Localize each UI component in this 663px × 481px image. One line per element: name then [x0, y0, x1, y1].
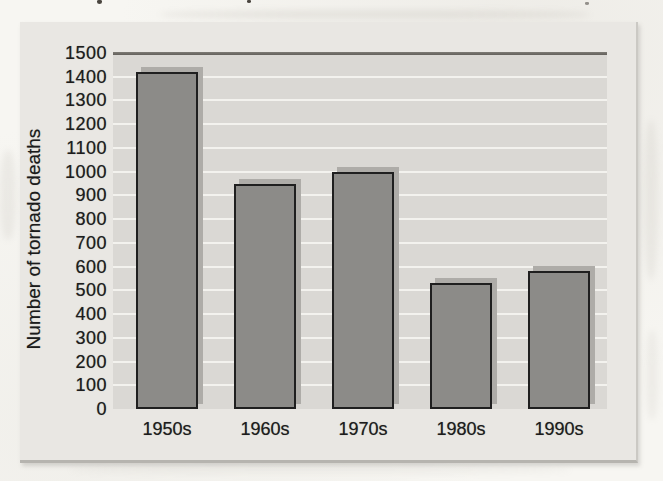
page-bleedthrough-smudge	[70, 466, 570, 474]
x-tick-label-1960s: 1960s	[216, 419, 314, 440]
bar-1970s	[332, 172, 394, 409]
bar-1960s	[234, 184, 296, 409]
x-tick-label-1990s: 1990s	[510, 419, 608, 440]
page-bleedthrough-smudge	[0, 150, 16, 240]
page-bleedthrough-smudge	[160, 10, 590, 19]
cropped-text-fragment	[97, 0, 102, 4]
y-tick-label-900: 900	[20, 186, 107, 204]
y-tick-label-100: 100	[20, 376, 107, 394]
y-tick-label-400: 400	[20, 305, 107, 323]
y-tick-label-1200: 1200	[20, 115, 107, 133]
bar-1950s	[136, 72, 198, 409]
y-tick-label-1500: 1500	[20, 44, 107, 62]
page-bleedthrough-smudge	[644, 120, 658, 280]
plot-top-border	[113, 52, 607, 55]
y-tick-label-1100: 1100	[20, 139, 107, 157]
y-tick-label-800: 800	[20, 210, 107, 228]
y-tick-label-1300: 1300	[20, 91, 107, 109]
y-tick-label-0: 0	[20, 400, 107, 418]
cropped-text-fragment	[585, 2, 589, 5]
x-tick-label-1970s: 1970s	[314, 419, 412, 440]
plot-area	[113, 53, 607, 409]
bar-1980s	[430, 283, 492, 409]
y-tick-label-700: 700	[20, 234, 107, 252]
cropped-text-fragment	[247, 0, 251, 3]
y-tick-label-600: 600	[20, 258, 107, 276]
x-tick-label-1980s: 1980s	[412, 419, 510, 440]
page-bleedthrough-smudge	[646, 330, 658, 420]
chart-panel: Number of tornado deaths 010020030040050…	[20, 22, 638, 463]
y-tick-label-200: 200	[20, 353, 107, 371]
bar-1990s	[528, 271, 590, 409]
y-tick-label-1400: 1400	[20, 68, 107, 86]
x-tick-label-1950s: 1950s	[118, 419, 216, 440]
y-tick-label-300: 300	[20, 329, 107, 347]
y-tick-label-500: 500	[20, 281, 107, 299]
y-tick-label-1000: 1000	[20, 163, 107, 181]
scanned-textbook-page: Number of tornado deaths 010020030040050…	[0, 0, 663, 481]
